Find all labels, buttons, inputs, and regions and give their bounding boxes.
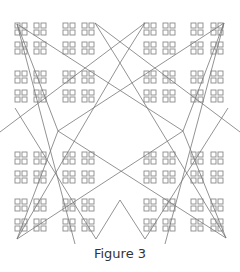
small-square — [218, 206, 223, 211]
small-square — [70, 49, 75, 54]
small-square — [191, 171, 196, 176]
small-square — [163, 219, 168, 224]
small-square — [70, 159, 75, 164]
small-square — [144, 178, 149, 183]
small-square — [211, 90, 216, 95]
small-square — [89, 206, 94, 211]
small-square — [22, 206, 27, 211]
small-square — [198, 159, 203, 164]
small-square — [198, 49, 203, 54]
small-square — [63, 219, 68, 224]
small-square — [63, 71, 68, 76]
small-square — [151, 78, 156, 83]
connector-line — [120, 23, 145, 63]
small-square — [15, 206, 20, 211]
small-square — [41, 226, 46, 231]
small-square — [41, 199, 46, 204]
small-square — [41, 71, 46, 76]
small-square — [170, 226, 175, 231]
small-square — [63, 30, 68, 35]
small-square — [63, 78, 68, 83]
small-square — [163, 78, 168, 83]
small-square — [151, 178, 156, 183]
small-square — [163, 90, 168, 95]
connector-line — [17, 131, 58, 239]
small-square — [22, 71, 27, 76]
small-square — [211, 78, 216, 83]
small-square — [63, 42, 68, 47]
connector-line — [17, 63, 120, 239]
connector-line — [183, 23, 224, 131]
small-square — [89, 90, 94, 95]
small-square — [151, 90, 156, 95]
small-square — [15, 49, 20, 54]
small-square — [144, 78, 149, 83]
small-square — [22, 97, 27, 102]
small-square — [63, 178, 68, 183]
small-square — [144, 49, 149, 54]
small-square — [22, 159, 27, 164]
small-square — [211, 23, 216, 28]
small-square — [218, 199, 223, 204]
small-square — [15, 219, 20, 224]
small-square — [191, 178, 196, 183]
small-square — [163, 71, 168, 76]
small-square — [70, 219, 75, 224]
small-square — [82, 199, 87, 204]
small-square — [163, 159, 168, 164]
small-square — [191, 30, 196, 35]
small-square — [151, 152, 156, 157]
small-square — [89, 199, 94, 204]
small-square — [41, 30, 46, 35]
small-square — [170, 159, 175, 164]
small-square — [15, 159, 20, 164]
small-square — [191, 78, 196, 83]
connector-line — [95, 23, 240, 132]
small-square — [198, 42, 203, 47]
small-square — [170, 97, 175, 102]
small-square — [34, 49, 39, 54]
connector-line — [96, 200, 120, 239]
small-square — [218, 90, 223, 95]
small-square — [63, 90, 68, 95]
small-square — [82, 71, 87, 76]
small-square — [82, 78, 87, 83]
small-square — [15, 78, 20, 83]
small-square — [144, 171, 149, 176]
small-square — [198, 30, 203, 35]
small-square — [82, 206, 87, 211]
connector-line — [95, 23, 120, 63]
small-square — [15, 71, 20, 76]
small-square — [198, 71, 203, 76]
small-square — [170, 178, 175, 183]
small-square — [211, 97, 216, 102]
small-square — [22, 78, 27, 83]
small-square — [41, 178, 46, 183]
small-square — [82, 90, 87, 95]
small-square — [144, 199, 149, 204]
small-square — [151, 23, 156, 28]
small-square — [41, 159, 46, 164]
small-square — [15, 171, 20, 176]
small-square — [198, 206, 203, 211]
small-square — [82, 152, 87, 157]
small-square — [151, 206, 156, 211]
small-square — [41, 206, 46, 211]
small-square — [82, 178, 87, 183]
small-square — [211, 71, 216, 76]
small-square — [89, 78, 94, 83]
small-square — [144, 226, 149, 231]
small-square — [82, 97, 87, 102]
small-square — [15, 97, 20, 102]
small-square — [63, 49, 68, 54]
small-square — [15, 42, 20, 47]
small-square — [70, 23, 75, 28]
small-square — [191, 23, 196, 28]
small-square — [70, 30, 75, 35]
small-square — [144, 206, 149, 211]
small-square — [170, 30, 175, 35]
small-square — [82, 42, 87, 47]
small-square — [70, 171, 75, 176]
small-square — [89, 219, 94, 224]
small-square — [191, 226, 196, 231]
